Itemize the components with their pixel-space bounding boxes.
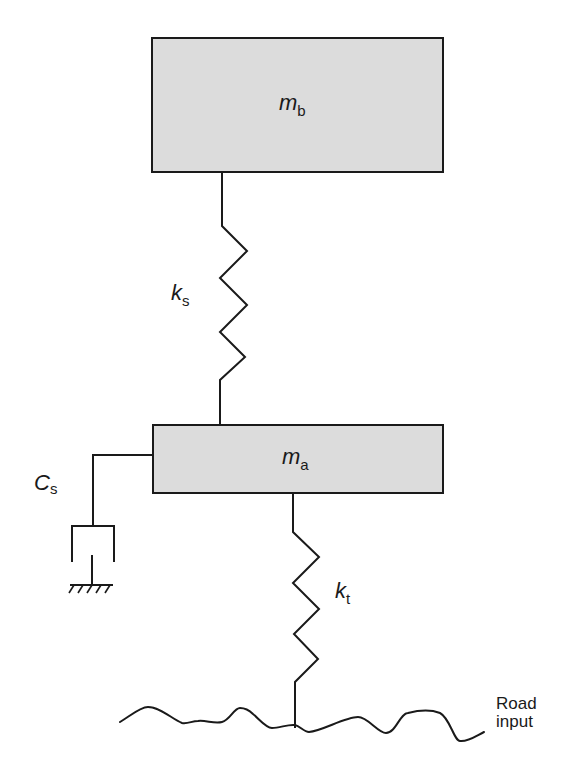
road-profile: Road input — [120, 694, 541, 741]
svg-text:Cs: Cs — [34, 470, 57, 497]
tire-spring-subscript: t — [346, 590, 351, 607]
sprung-mass-box: mb — [152, 38, 443, 172]
sprung-mass-subscript: b — [297, 102, 305, 119]
svg-text:ks: ks — [171, 280, 190, 309]
ground-hatch-icon — [69, 585, 113, 593]
unsprung-mass-symbol: m — [282, 444, 300, 469]
damper-subscript: s — [50, 480, 58, 497]
unsprung-mass-subscript: a — [300, 456, 309, 473]
damper-symbol: C — [34, 470, 50, 495]
tire-spring: kt — [293, 493, 351, 728]
sprung-mass-symbol: m — [279, 90, 297, 115]
unsprung-mass-box: ma — [153, 425, 443, 493]
suspension-spring-subscript: s — [182, 292, 190, 309]
road-input-label: Road input — [496, 694, 541, 731]
svg-text:kt: kt — [335, 578, 351, 607]
quarter-car-diagram: mb ks ma Cs kt — [0, 0, 584, 768]
suspension-damper: Cs — [34, 455, 153, 593]
suspension-spring: ks — [171, 172, 247, 425]
